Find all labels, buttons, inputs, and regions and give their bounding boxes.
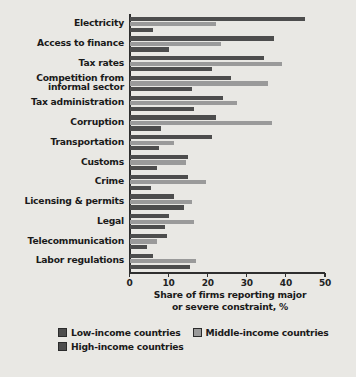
category-label: Customs [0,157,124,167]
bar-low [130,36,275,40]
bar-low [130,135,212,139]
bar-high [130,265,191,269]
bar-low [130,234,167,238]
category-label: Tax rates [0,58,124,68]
legend-row-1: Low-income countries Middle-income count… [58,327,348,338]
category-label: Access to finance [0,38,124,48]
bar-middle [130,220,195,224]
legend-swatch-icon-middle [193,328,202,337]
x-tick [324,273,325,277]
bar-middle [130,22,216,26]
bar-middle [130,259,196,263]
bar-low [130,214,169,218]
x-axis-line [129,272,325,274]
category-label: Legal [0,216,124,226]
bar-high [130,245,148,249]
x-tick [207,273,208,277]
bar-high [130,146,159,150]
legend-item-high-income: High-income countries [58,341,184,352]
bar-high [130,107,195,111]
bar-low [130,175,189,179]
bar-middle [130,121,273,125]
x-tick [285,273,286,277]
category-label-line: Access to finance [0,38,124,48]
legend-swatch-icon-high [58,342,67,351]
legend-row-2: High-income countries [58,341,348,352]
category-label: Telecommunication [0,236,124,246]
category-label: Tax administration [0,97,124,107]
x-tick-label: 50 [319,278,331,288]
x-tick [129,273,130,277]
category-label-line: Transportation [0,137,124,147]
bar-high [130,205,185,209]
category-label-line: informal sector [0,82,124,92]
x-tick-label: 20 [202,278,214,288]
x-axis-title-line1: Share of firms reporting major [128,289,332,301]
bar-low [130,194,175,198]
category-label: Transportation [0,137,124,147]
bar-low [130,17,306,21]
bar-middle [130,62,282,66]
legend-item-middle-income: Middle-income countries [193,327,329,338]
legend-swatch-icon-low [58,328,67,337]
bar-high [130,225,165,229]
category-label-line: Licensing & permits [0,196,124,206]
category-label: Competition frominformal sector [0,73,124,92]
bar-middle [130,200,193,204]
bar-high [130,47,169,51]
bar-middle [130,81,269,85]
category-label: Licensing & permits [0,196,124,206]
x-tick [246,273,247,277]
legend-label-high: High-income countries [71,341,184,352]
legend-label-middle: Middle-income countries [206,327,329,338]
category-label-line: Crime [0,176,124,186]
category-label-line: Electricity [0,18,124,28]
bar-high [130,67,212,71]
bar-middle [130,101,238,105]
bar-high [130,126,161,130]
bar-high [130,186,152,190]
bar-middle [130,42,222,46]
bar-high [130,166,157,170]
bar-middle [130,160,187,164]
legend-item-low-income: Low-income countries [58,327,181,338]
bar-middle [130,180,206,184]
chart-figure: 01020304050 ElectricityAccess to finance… [0,0,356,377]
category-label: Electricity [0,18,124,28]
bar-low [130,56,265,60]
x-axis-title: Share of firms reporting major or severe… [128,289,332,312]
bar-middle [130,141,175,145]
category-label-line: Telecommunication [0,236,124,246]
category-label: Corruption [0,117,124,127]
x-axis-title-line2: or severe constraint, % [128,301,332,313]
x-tick-label: 10 [163,278,175,288]
x-tick [168,273,169,277]
bar-low [130,76,232,80]
x-tick-label: 40 [280,278,292,288]
x-tick-label: 30 [241,278,253,288]
legend-label-low: Low-income countries [71,327,181,338]
bar-high [130,28,153,32]
bar-high [130,87,193,91]
category-label-line: Labor regulations [0,255,124,265]
bar-middle [130,239,157,243]
category-label-line: Legal [0,216,124,226]
bar-low [130,254,153,258]
category-label-line: Tax rates [0,58,124,68]
bar-low [130,115,216,119]
bar-low [130,96,224,100]
category-label-line: Customs [0,157,124,167]
category-label-line: Tax administration [0,97,124,107]
category-label: Labor regulations [0,255,124,265]
x-tick-label: 0 [126,278,132,288]
chart-legend: Low-income countries Middle-income count… [58,327,348,355]
category-label-line: Corruption [0,117,124,127]
category-label: Crime [0,176,124,186]
bar-low [130,155,189,159]
